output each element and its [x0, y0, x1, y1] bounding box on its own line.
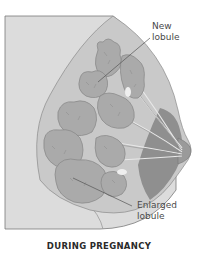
enlarged-lobule-label: Enlarged lobule: [137, 200, 177, 222]
lobule-new: [79, 71, 108, 98]
enlarged-lobule-label-line-1: Enlarged: [137, 200, 177, 211]
figure-caption: DURING PREGNANCY: [0, 241, 198, 251]
breast-anatomy-figure: New lobule Enlarged lobule DURING PREGNA…: [0, 0, 198, 257]
new-lobule-label-line-2: lobule: [152, 32, 179, 43]
new-lobule-label-line-1: New: [152, 21, 179, 32]
new-lobule-label: New lobule: [152, 21, 179, 43]
enlarged-lobule-label-line-2: lobule: [137, 211, 177, 222]
